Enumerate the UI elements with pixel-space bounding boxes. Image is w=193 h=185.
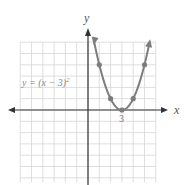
equation-label: y = (x − 3)2 — [21, 76, 70, 89]
data-point — [97, 62, 102, 67]
data-point — [108, 96, 113, 101]
tick-label: 3 — [119, 113, 124, 124]
y-axis-label: y — [83, 11, 90, 25]
x-axis-label: x — [173, 103, 180, 117]
graph: y x y = (x − 3)2 3 — [0, 0, 193, 185]
equation-text: y = (x − 3) — [21, 77, 67, 89]
equation-exponent: 2 — [66, 76, 70, 84]
data-point — [119, 107, 124, 112]
data-point — [142, 62, 147, 67]
data-point — [131, 96, 136, 101]
tick-labels: 3 — [119, 113, 124, 124]
axes — [8, 28, 168, 185]
